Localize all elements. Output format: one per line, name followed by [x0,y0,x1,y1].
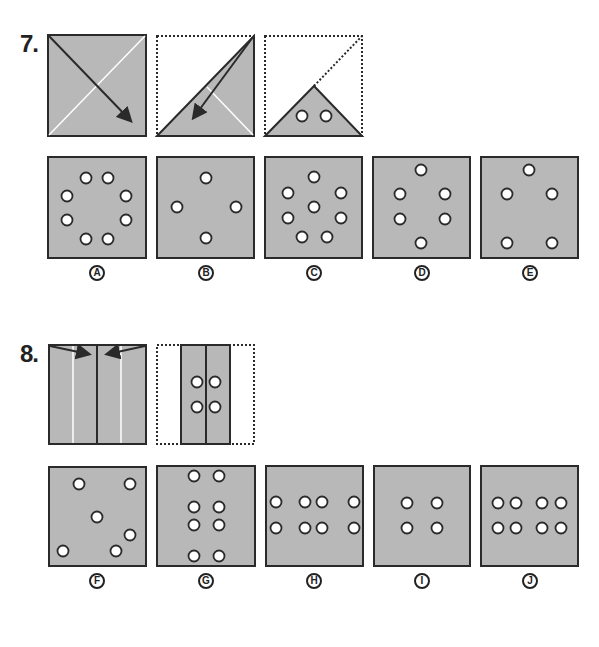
question-8-number: 8. [20,340,38,368]
option-c-label[interactable]: C [306,265,322,281]
hole-icon [317,523,328,534]
hole-icon [493,523,504,534]
hole-icon [336,188,347,199]
hole-icon [432,498,443,509]
hole-icon [537,498,548,509]
hole-icon [125,530,136,541]
hole-icon [547,189,558,200]
option-h-box [266,466,363,566]
q8-step1-square [49,345,146,444]
hole-icon [201,233,212,244]
q8-step2-folded-strip [157,345,254,444]
hole-icon [524,165,535,176]
hole-icon [309,172,320,183]
option-e-label[interactable]: E [522,265,538,281]
hole-icon [297,232,308,243]
q7-step3-punched-triangle [265,36,362,136]
hole-icon [92,512,103,523]
hole-icon [62,215,73,226]
option-a-box [48,157,146,258]
hole-icon [349,523,360,534]
hole-icon [103,234,114,245]
hole-icon [271,523,282,534]
hole-icon [62,191,73,202]
hole-icon [81,234,92,245]
hole-icon [402,523,413,534]
hole-icon [556,498,567,509]
q7-step1-square [48,35,146,136]
puzzle-canvas [0,0,599,647]
hole-icon [74,479,85,490]
hole-icon [537,523,548,534]
hole-icon [502,189,513,200]
hole-icon [556,523,567,534]
hole-icon [201,173,212,184]
option-i-label[interactable]: I [414,573,430,589]
hole-icon [210,402,221,413]
hole-icon [192,377,203,388]
option-j-label[interactable]: J [522,573,538,589]
hole-icon [214,520,225,531]
hole-icon [395,189,406,200]
hole-icon [214,502,225,513]
hole-icon [321,111,332,122]
hole-icon [349,497,360,508]
hole-icon [189,471,200,482]
hole-icon [336,213,347,224]
hole-icon [322,232,333,243]
hole-icon [502,238,513,249]
option-j-box [481,466,578,566]
hole-icon [547,238,558,249]
hole-icon [511,498,522,509]
option-f-label[interactable]: F [89,573,105,589]
hole-icon [493,498,504,509]
hole-icon [214,551,225,562]
hole-icon [172,202,183,213]
hole-icon [121,215,132,226]
hole-icon [192,402,203,413]
hole-icon [300,523,311,534]
hole-icon [81,173,92,184]
hole-icon [297,111,308,122]
hole-icon [440,189,451,200]
option-i-box [374,466,470,566]
hole-icon [317,497,328,508]
hole-icon [416,165,427,176]
hole-icon [231,202,242,213]
hole-icon [416,238,427,249]
hole-icon [300,497,311,508]
option-g-box [157,466,255,566]
option-b-label[interactable]: B [198,265,214,281]
option-g-label[interactable]: G [198,573,214,589]
hole-icon [189,502,200,513]
hole-icon [283,188,294,199]
option-d-label[interactable]: D [414,265,430,281]
q7-step2-folded-triangle [157,36,254,136]
hole-icon [189,551,200,562]
hole-icon [511,523,522,534]
hole-icon [121,191,132,202]
hole-icon [440,214,451,225]
hole-icon [309,202,320,213]
hole-icon [271,497,282,508]
hole-icon [283,213,294,224]
hole-icon [402,498,413,509]
hole-icon [210,377,221,388]
hole-icon [125,479,136,490]
hole-icon [58,546,69,557]
hole-icon [395,214,406,225]
hole-icon [214,471,225,482]
hole-icon [103,173,114,184]
hole-icon [111,546,122,557]
option-h-label[interactable]: H [306,573,322,589]
option-a-label[interactable]: A [89,265,105,281]
hole-icon [432,523,443,534]
hole-icon [189,520,200,531]
